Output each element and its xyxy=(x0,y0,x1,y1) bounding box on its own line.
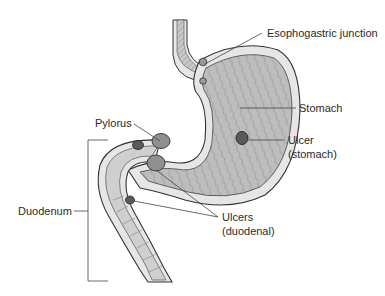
label-ulcers-duodenal-line1: Ulcers xyxy=(222,210,253,224)
stomach xyxy=(128,46,300,205)
label-esophogastric-junction: Esophogastric junction xyxy=(267,26,378,40)
label-ulcers-duodenal-line2: (duodenal) xyxy=(222,224,275,238)
label-ulcer-stomach-line1: Ulcer xyxy=(288,133,314,147)
esophogastric-junction-lump-top xyxy=(199,58,207,66)
label-stomach: Stomach xyxy=(299,101,342,115)
label-ulcer-stomach-line2: (stomach) xyxy=(288,147,337,161)
leader-pylorus xyxy=(134,124,160,141)
label-duodenum: Duodenum xyxy=(18,204,72,218)
pylorus-lump-top xyxy=(152,134,170,149)
ulcer-duodenal-lower xyxy=(126,196,135,204)
pylorus-lump-bottom xyxy=(147,155,165,171)
ulcer-duodenal-upper xyxy=(133,141,144,150)
esophogastric-junction-lump-bottom xyxy=(200,78,207,85)
ulcer-stomach xyxy=(236,132,248,145)
label-pylorus: Pylorus xyxy=(95,116,132,130)
